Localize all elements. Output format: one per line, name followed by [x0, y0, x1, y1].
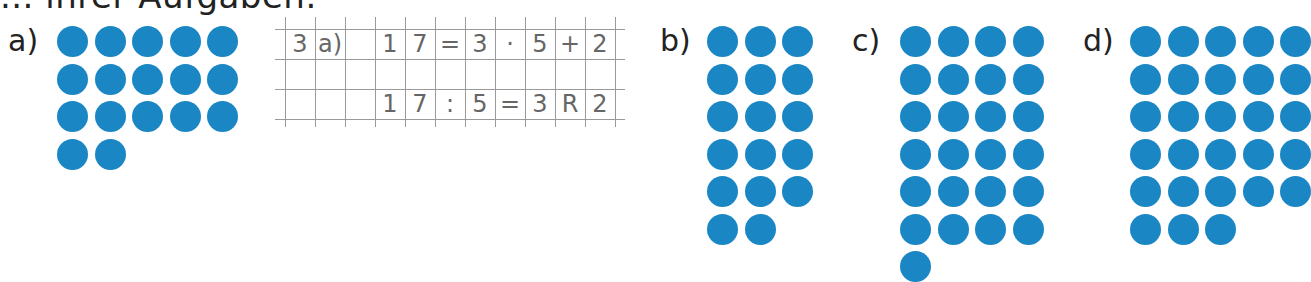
dot: [1168, 64, 1199, 95]
grid-cell: 5: [525, 29, 555, 59]
grid-cell: 7: [405, 89, 435, 119]
dot: [57, 64, 88, 95]
dot: [1280, 26, 1311, 57]
dot: [782, 176, 813, 207]
dot: [1243, 64, 1274, 95]
dot: [975, 64, 1006, 95]
dot: [1243, 101, 1274, 132]
dot: [95, 101, 126, 132]
dot: [1130, 26, 1161, 57]
dot: [938, 176, 969, 207]
dot: [1130, 139, 1161, 170]
dot: [900, 101, 931, 132]
group-label: d): [1083, 26, 1114, 56]
dot: [1205, 176, 1236, 207]
dot: [1130, 176, 1161, 207]
grid-line: [615, 17, 616, 127]
dot: [1130, 214, 1161, 245]
group-label: b): [660, 26, 691, 56]
dot: [1168, 176, 1199, 207]
dot: [57, 101, 88, 132]
dot: [707, 26, 738, 57]
grid-cell: 1: [375, 29, 405, 59]
dot: [938, 214, 969, 245]
dot: [745, 26, 776, 57]
dot: [1013, 64, 1044, 95]
dot: [1168, 101, 1199, 132]
dot: [975, 176, 1006, 207]
dot: [707, 64, 738, 95]
dot: [900, 139, 931, 170]
notebook-grid: 3a)17=3·5+217:5=3R2: [270, 15, 630, 130]
grid-cell: ·: [495, 29, 525, 59]
dot: [170, 26, 201, 57]
dot: [1205, 139, 1236, 170]
dot: [707, 214, 738, 245]
dot: [1013, 214, 1044, 245]
dot: [975, 26, 1006, 57]
grid-cell: 1: [375, 89, 405, 119]
dot: [57, 26, 88, 57]
dot: [938, 26, 969, 57]
dot: [1130, 64, 1161, 95]
dot: [170, 101, 201, 132]
dot: [1205, 26, 1236, 57]
dot: [132, 64, 163, 95]
dot: [1280, 139, 1311, 170]
dot: [132, 26, 163, 57]
dot: [207, 101, 238, 132]
dot: [95, 64, 126, 95]
dot: [782, 26, 813, 57]
grid-cell: 3: [285, 29, 315, 59]
dot: [1013, 176, 1044, 207]
dot: [745, 64, 776, 95]
dot: [1130, 101, 1161, 132]
grid-cell: 2: [585, 29, 615, 59]
grid-cell: a): [315, 29, 345, 59]
dot: [782, 101, 813, 132]
dot: [1168, 214, 1199, 245]
dot: [900, 214, 931, 245]
dot: [782, 139, 813, 170]
grid-cell: 5: [465, 89, 495, 119]
dot: [1205, 214, 1236, 245]
dot: [900, 26, 931, 57]
dot: [132, 101, 163, 132]
dot: [95, 139, 126, 170]
dot: [707, 176, 738, 207]
grid-cell: +: [555, 29, 585, 59]
dot: [1013, 139, 1044, 170]
dot: [745, 139, 776, 170]
grid-cell: 7: [405, 29, 435, 59]
dot: [745, 176, 776, 207]
dot: [900, 251, 931, 282]
dot: [900, 64, 931, 95]
dot: [745, 101, 776, 132]
dot: [975, 139, 1006, 170]
dot: [782, 64, 813, 95]
dot: [1243, 26, 1274, 57]
dot: [938, 64, 969, 95]
dot: [207, 26, 238, 57]
dot: [170, 64, 201, 95]
dot: [707, 139, 738, 170]
group-label: a): [8, 26, 38, 56]
dot: [1013, 26, 1044, 57]
instruction-text: ... ihrer Aufgaben.: [0, 0, 317, 16]
dot: [57, 139, 88, 170]
dot: [707, 101, 738, 132]
dot: [1243, 176, 1274, 207]
grid-line: [275, 59, 625, 60]
dot: [938, 139, 969, 170]
dot: [1205, 101, 1236, 132]
dot: [1013, 101, 1044, 132]
dot: [95, 26, 126, 57]
group-label: c): [852, 26, 880, 56]
grid-cell: 3: [525, 89, 555, 119]
grid-line: [345, 17, 346, 127]
grid-cell: 2: [585, 89, 615, 119]
dot: [1205, 64, 1236, 95]
dot: [1168, 26, 1199, 57]
dot: [1280, 64, 1311, 95]
dot: [975, 214, 1006, 245]
